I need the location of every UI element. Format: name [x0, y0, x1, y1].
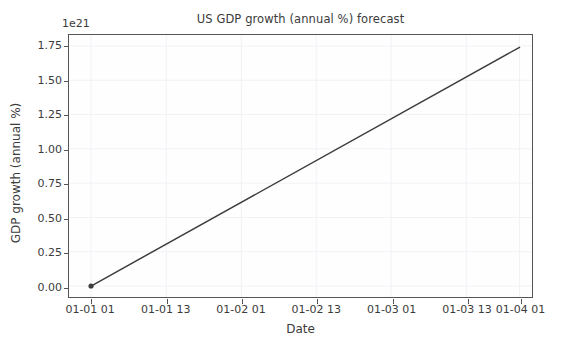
- chart-figure: US GDP growth (annual %) forecast 1e21 0…: [0, 0, 565, 353]
- x-axis-title: Date: [68, 322, 533, 336]
- y-axis-tick: [64, 253, 69, 254]
- x-axis-tick-label: 01-01 01: [65, 303, 114, 316]
- data-point-marker: [88, 283, 93, 288]
- y-axis-tick-label: 0.50: [38, 211, 63, 224]
- y-axis-tick-label: 1.00: [38, 142, 63, 155]
- y-axis-tick: [64, 150, 69, 151]
- x-axis-tick-label: 01-01 13: [141, 303, 190, 316]
- x-axis-tick-label: 01-02 01: [216, 303, 265, 316]
- y-axis-tick: [64, 288, 69, 289]
- y-axis-tick-label: 0.75: [38, 177, 63, 190]
- x-axis-tick-label: 01-04 01: [496, 303, 545, 316]
- y-axis-tick: [64, 46, 69, 47]
- y-axis-tick-label: 1.50: [38, 73, 63, 86]
- y-axis-tick: [64, 219, 69, 220]
- y-axis-tick: [64, 115, 69, 116]
- chart-title: US GDP growth (annual %) forecast: [68, 12, 533, 26]
- x-axis-tick-label: 01-03 13: [442, 303, 491, 316]
- y-axis-title: GDP growth (annual %): [9, 73, 23, 273]
- y-axis-tick-label: 1.75: [38, 39, 63, 52]
- plot-area: [68, 34, 533, 298]
- x-axis-tick-labels: 01-01 0101-01 1301-02 0101-02 1301-03 01…: [68, 303, 533, 323]
- y-axis-tick-label: 1.25: [38, 108, 63, 121]
- y-axis-tick: [64, 81, 69, 82]
- y-axis-offset-label: 1e21: [62, 17, 90, 30]
- y-axis-tick-label: 0.00: [38, 280, 63, 293]
- y-axis-tick-label: 0.25: [38, 246, 63, 259]
- y-axis-tick: [64, 184, 69, 185]
- x-axis-tick-label: 01-02 13: [292, 303, 341, 316]
- x-axis-tick-label: 01-03 01: [367, 303, 416, 316]
- data-line: [91, 47, 519, 286]
- data-series-layer: [69, 35, 532, 297]
